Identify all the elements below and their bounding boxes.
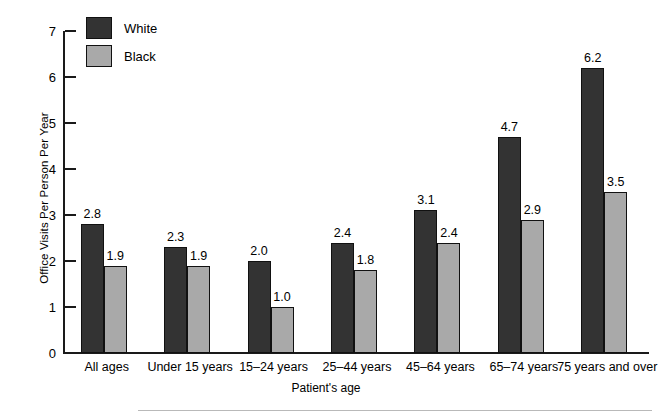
bar-value-label-white-4: 3.1: [408, 194, 443, 207]
bar-value-label-white-0: 2.8: [75, 208, 110, 221]
bar-black-3: [354, 270, 377, 353]
footer-divider: [138, 410, 652, 411]
y-tick-label-4: 4: [36, 163, 56, 176]
y-tick-label-5: 5: [36, 117, 56, 130]
legend-label-black: Black: [124, 50, 156, 63]
bar-value-label-white-1: 2.3: [158, 231, 193, 244]
bar-black-4: [437, 243, 460, 353]
bar-value-label-white-2: 2.0: [242, 245, 277, 258]
legend-swatch-white-icon: [86, 17, 112, 39]
bar-black-0: [104, 266, 127, 353]
bar-white-4: [414, 210, 437, 353]
y-tick-label-1: 1: [36, 301, 56, 314]
x-axis-title: Patient's age: [0, 381, 652, 395]
bar-black-2: [271, 307, 294, 353]
legend-swatch-black-icon: [86, 45, 112, 67]
x-category-label-6: 75 years and over: [554, 360, 661, 374]
bar-white-6: [581, 68, 604, 353]
bar-value-label-white-5: 4.7: [492, 121, 527, 134]
bar-white-2: [248, 261, 271, 353]
legend: White Black: [86, 14, 157, 70]
bar-white-3: [331, 243, 354, 353]
bar-black-1: [187, 266, 210, 353]
y-tick-label-2: 2: [36, 255, 56, 268]
bar-value-label-white-6: 6.2: [575, 52, 610, 65]
bar-black-5: [521, 220, 544, 353]
bar-white-0: [81, 224, 104, 353]
plot-area: 2.81.92.31.92.01.02.41.83.12.44.72.96.23…: [65, 31, 649, 353]
y-axis-title: Office Visits Per Person Per Year: [38, 58, 50, 338]
legend-item-black: Black: [86, 42, 157, 70]
y-tick-label-7: 7: [36, 25, 56, 38]
bar-white-1: [164, 247, 187, 353]
bar-black-6: [604, 192, 627, 353]
y-tick-label-0: 0: [36, 347, 56, 360]
legend-label-white: White: [124, 22, 157, 35]
bar-value-label-white-3: 2.4: [325, 227, 360, 240]
y-tick-label-3: 3: [36, 209, 56, 222]
bar-white-5: [498, 137, 521, 353]
y-tick-label-6: 6: [36, 71, 56, 84]
legend-item-white: White: [86, 14, 157, 42]
